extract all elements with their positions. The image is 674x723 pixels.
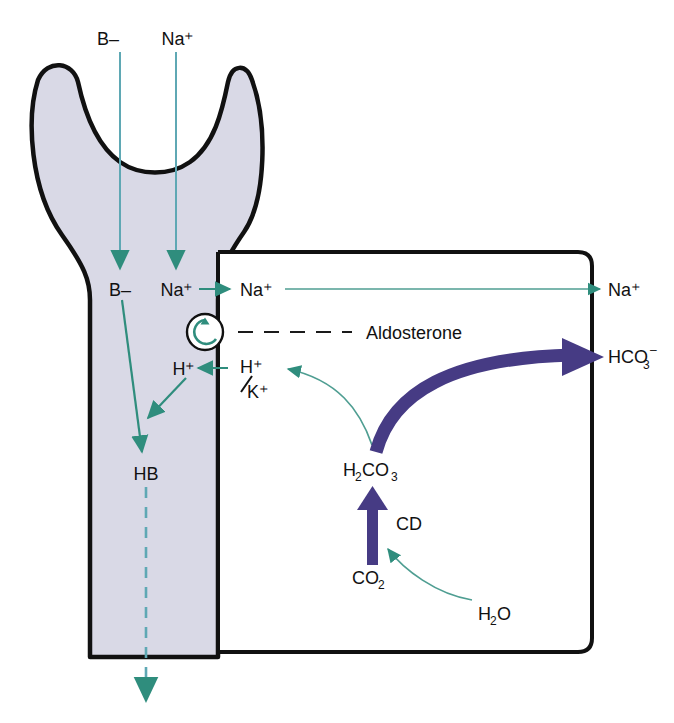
svg-text:2: 2 bbox=[490, 614, 497, 628]
label-k-plus-cell: K⁺ bbox=[247, 382, 269, 402]
epithelial-cell-box bbox=[218, 252, 592, 652]
label-hb: HB bbox=[133, 464, 158, 484]
label-h-plus-cell: H⁺ bbox=[240, 357, 263, 377]
svg-text:2: 2 bbox=[378, 578, 385, 592]
svg-text:3: 3 bbox=[391, 470, 398, 484]
sodium-pump-icon bbox=[187, 314, 223, 350]
label-cd: CD bbox=[396, 514, 422, 534]
svg-text:–: – bbox=[650, 343, 657, 357]
svg-text:2: 2 bbox=[355, 470, 362, 484]
svg-text:3: 3 bbox=[643, 358, 650, 372]
svg-text:HCO: HCO bbox=[608, 347, 648, 367]
svg-text:CO: CO bbox=[352, 568, 379, 588]
label-b-minus-top: B– bbox=[97, 29, 119, 49]
label-na-plus-blood: Na⁺ bbox=[608, 280, 641, 300]
diagram-svg: B– Na⁺ B– Na⁺ H⁺ HB Na⁺ Aldosterone H⁺ K… bbox=[0, 0, 674, 723]
label-h-plus-lumen: H⁺ bbox=[173, 359, 196, 379]
label-na-plus-lumen: Na⁺ bbox=[160, 280, 193, 300]
label-aldosterone: Aldosterone bbox=[366, 323, 462, 343]
label-na-plus-cell: Na⁺ bbox=[240, 280, 273, 300]
svg-text:CO: CO bbox=[362, 460, 389, 480]
label-na-plus-top: Na⁺ bbox=[161, 29, 194, 49]
diagram-canvas: B– Na⁺ B– Na⁺ H⁺ HB Na⁺ Aldosterone H⁺ K… bbox=[0, 0, 674, 723]
label-hco3-minus: HCO 3 – bbox=[608, 343, 657, 372]
svg-text:O: O bbox=[497, 604, 511, 624]
label-b-minus-lumen: B– bbox=[109, 280, 131, 300]
